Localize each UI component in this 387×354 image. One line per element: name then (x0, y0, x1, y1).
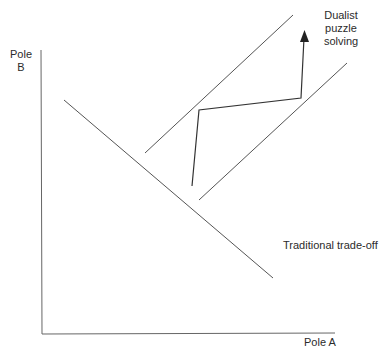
pole-b-label-line2: B (8, 61, 34, 74)
dualist-puzzle-solving-label: Dualist puzzle solving (318, 9, 364, 48)
x-axis (42, 333, 335, 334)
diagram-canvas (0, 0, 387, 354)
pole-b-label: Pole B (8, 48, 34, 74)
y-axis (41, 50, 42, 334)
dualist-label-line1: Dualist (318, 9, 364, 22)
dualist-path-arrow (192, 38, 304, 186)
pole-a-label: Pole A (304, 336, 336, 349)
pole-b-label-line1: Pole (8, 48, 34, 61)
arrowhead-icon (300, 30, 309, 42)
dualist-label-line2: puzzle (318, 22, 364, 35)
dualist-label-line3: solving (318, 35, 364, 48)
lower-channel-boundary (199, 63, 347, 200)
traditional-trade-off-line (64, 100, 273, 278)
traditional-trade-off-label: Traditional trade-off (283, 239, 378, 252)
upper-channel-boundary (145, 15, 293, 153)
